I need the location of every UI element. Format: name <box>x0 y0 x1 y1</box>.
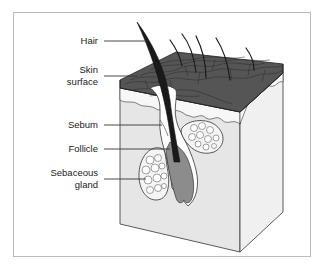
label-sebaceous-gland: Sebaceous gland <box>50 167 98 191</box>
label-hair: Hair <box>81 35 98 47</box>
label-hair-text: Hair <box>81 35 98 46</box>
label-sebum: Sebum <box>68 119 98 131</box>
label-sebaceous-gland-line1: Sebaceous <box>50 167 98 179</box>
label-skin-surface: Skin surface <box>67 64 98 88</box>
label-sebum-text: Sebum <box>68 119 98 130</box>
label-skin-surface-line2: surface <box>67 76 98 88</box>
illustration <box>0 0 324 269</box>
label-follicle: Follicle <box>68 143 98 155</box>
label-skin-surface-line1: Skin <box>67 64 98 76</box>
label-sebaceous-gland-line2: gland <box>50 179 98 191</box>
label-follicle-text: Follicle <box>68 143 98 154</box>
